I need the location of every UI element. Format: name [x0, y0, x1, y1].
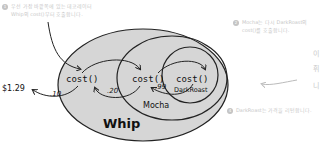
whip-price: .10: [50, 90, 62, 98]
darkroast-price: .99: [155, 83, 167, 91]
whip-cost-label: cost(): [66, 74, 99, 84]
faded-arrow: [262, 80, 297, 85]
darkroast-label: DarkRoast: [174, 86, 208, 94]
decorator-diagram: cost() cost() cost() .10 .20 .99 $1.29 D…: [0, 0, 327, 147]
darkroast-cost-label: cost(): [176, 74, 209, 84]
whip-layer: [58, 29, 228, 141]
total-price: $1.29: [2, 84, 25, 93]
whip-label: Whip: [103, 116, 140, 131]
mocha-label: Mocha: [143, 101, 169, 110]
mocha-price: .20: [107, 87, 119, 95]
